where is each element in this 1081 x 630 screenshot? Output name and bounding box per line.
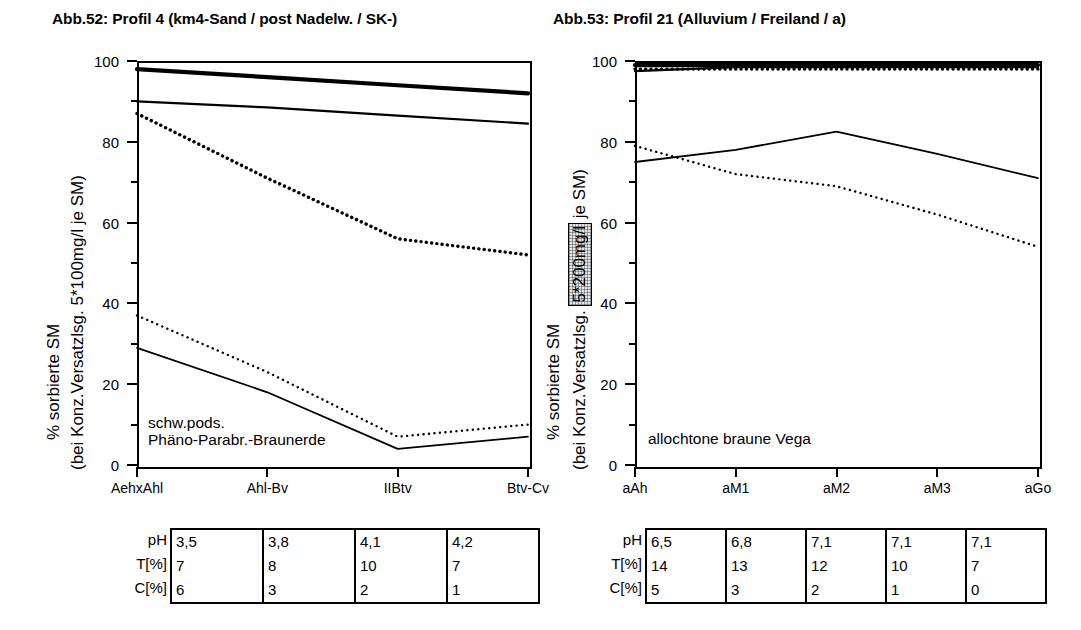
table-cell: 7,1 [806,529,886,554]
table-cell: 4,1 [355,529,447,554]
table-row-label: T[%] [134,552,167,576]
table-cell: 10 [355,554,447,578]
figure-page: Abb.52: Profil 4 (km4-Sand / post Nadelw… [0,0,1081,630]
data-table-abb52: pHT[%]C[%]3,53,84,14,2781076321 [170,528,540,604]
table-cell: 10 [886,554,966,578]
table-cell: 7,1 [886,529,966,554]
plot-annotation-line1-abb52: schw.pods. [148,414,326,431]
plot-annotation-line1-abb53: allochtone braune Vega [648,430,811,447]
table-row-labels: pHT[%]C[%] [134,528,170,600]
table-cell: 3,5 [171,529,263,554]
data-series-series-4-fine-dotted [635,146,1038,247]
table-cell: 6,5 [646,529,726,554]
table-cell: 7,1 [966,529,1046,554]
table-cell: 12 [806,554,886,578]
table-cell: 1 [447,578,539,603]
table-row-label: C[%] [134,576,167,600]
table-cell: 7 [966,554,1046,578]
table-row: 53210 [646,578,1046,603]
data-series-series-2-medium-solid [137,101,528,123]
table-row-labels: pHT[%]C[%] [609,528,645,600]
data-series-series-1-thick-solid [137,69,528,93]
plot-annotation-line2-abb52: Phäno-Parabr.-Braunerde [148,431,326,448]
table-cell: 7 [447,554,539,578]
figure-panel-abb53: Abb.53: Profil 21 (Alluvium / Freiland /… [540,0,1080,630]
figure-panel-abb52: Abb.52: Profil 4 (km4-Sand / post Nadelw… [0,0,540,630]
table-grid: 3,53,84,14,2781076321 [170,528,540,604]
table-cell: 3 [726,578,806,603]
plot-annotation-abb53: allochtone braune Vega [648,430,811,447]
table-cell: 7 [171,554,263,578]
table-cell: 2 [806,578,886,603]
table-cell: 6 [171,578,263,603]
table-row-label: C[%] [609,576,642,600]
table-cell: 1 [886,578,966,603]
table-row: 6,56,87,17,17,1 [646,529,1046,554]
table-cell: 5 [646,578,726,603]
table-cell: 13 [726,554,806,578]
table-cell: 3,8 [263,529,355,554]
table-grid: 6,56,87,17,17,114131210753210 [645,528,1047,604]
table-row-label: T[%] [609,552,642,576]
data-series-series-3-bold-dotted [137,114,528,255]
table-row: 141312107 [646,554,1046,578]
table-cell: 3 [263,578,355,603]
table-row-label: pH [609,528,642,552]
table-row: 6321 [171,578,539,603]
data-series-series-5-thin-solid [635,132,1038,178]
table-cell: 2 [355,578,447,603]
data-table-abb53: pHT[%]C[%]6,56,87,17,17,114131210753210 [645,528,1047,604]
table-row-label: pH [134,528,167,552]
table-cell: 6,8 [726,529,806,554]
plot-annotation-abb52: schw.pods. Phäno-Parabr.-Braunerde [148,414,326,449]
table-cell: 0 [966,578,1046,603]
table-row: 3,53,84,14,2 [171,529,539,554]
table-cell: 8 [263,554,355,578]
table-row: 78107 [171,554,539,578]
table-cell: 4,2 [447,529,539,554]
table-cell: 14 [646,554,726,578]
